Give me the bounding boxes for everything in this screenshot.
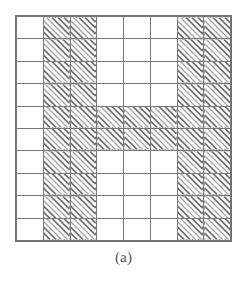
grid-cell-filled [70, 173, 97, 195]
grid-cell-empty [150, 218, 177, 240]
grid-cell-filled [70, 218, 97, 240]
grid-cell-filled [177, 84, 204, 106]
grid-cell-filled [177, 218, 204, 240]
grid-cell-filled [43, 84, 70, 106]
grid-cell-empty [97, 173, 124, 195]
grid-cell-filled [204, 128, 231, 150]
grid-cell-filled [150, 106, 177, 128]
grid-cell-empty [97, 39, 124, 61]
grid-cell-empty [150, 17, 177, 39]
grid-cell-empty [150, 173, 177, 195]
grid-cell-empty [17, 39, 44, 61]
grid-cell-filled [43, 218, 70, 240]
grid-cell-empty [97, 151, 124, 173]
grid-row [17, 17, 231, 39]
grid-cell-filled [177, 128, 204, 150]
grid-cell-filled [43, 17, 70, 39]
grid-row [17, 61, 231, 83]
grid-row [17, 218, 231, 240]
grid-cell-filled [43, 61, 70, 83]
grid-cell-empty [97, 17, 124, 39]
grid-cell-empty [124, 151, 151, 173]
grid-cell-filled [124, 128, 151, 150]
grid-cell-empty [150, 151, 177, 173]
grid-cell-empty [124, 218, 151, 240]
grid-cell-empty [124, 17, 151, 39]
grid-cell-empty [124, 84, 151, 106]
grid-cell-filled [70, 39, 97, 61]
grid-row [17, 151, 231, 173]
grid-cell-empty [97, 84, 124, 106]
grid-cell-empty [17, 84, 44, 106]
grid-cell-empty [124, 61, 151, 83]
grid-cell-empty [150, 61, 177, 83]
grid-row [17, 128, 231, 150]
grid-cell-filled [70, 17, 97, 39]
grid-cell-filled [204, 173, 231, 195]
grid-cell-filled [204, 151, 231, 173]
grid-cell-empty [97, 61, 124, 83]
grid-cell-filled [204, 84, 231, 106]
grid-cell-filled [204, 61, 231, 83]
grid-cell-filled [97, 106, 124, 128]
grid-cell-filled [43, 39, 70, 61]
grid-row [17, 84, 231, 106]
grid-cell-empty [17, 173, 44, 195]
grid-cell-filled [150, 128, 177, 150]
grid-body [17, 17, 231, 241]
grid-row [17, 106, 231, 128]
grid-cell-filled [204, 39, 231, 61]
grid-cell-filled [43, 173, 70, 195]
grid-cell-empty [124, 39, 151, 61]
grid-cell-filled [70, 61, 97, 83]
grid-cell-empty [97, 218, 124, 240]
grid-cell-empty [17, 17, 44, 39]
grid-cell-empty [97, 196, 124, 218]
grid-cell-empty [17, 128, 44, 150]
grid-cell-filled [70, 151, 97, 173]
grid-cell-filled [177, 106, 204, 128]
grid-cell-empty [17, 196, 44, 218]
pattern-grid [15, 15, 232, 242]
grid-cell-filled [70, 106, 97, 128]
grid-cell-filled [177, 196, 204, 218]
grid-cell-empty [17, 151, 44, 173]
grid-cell-empty [124, 196, 151, 218]
grid-cell-filled [177, 173, 204, 195]
grid-cell-filled [204, 17, 231, 39]
grid-cell-filled [70, 128, 97, 150]
grid-row [17, 39, 231, 61]
grid-cell-filled [97, 128, 124, 150]
grid-table [16, 16, 231, 241]
figure-container: (a) [0, 0, 247, 285]
figure-caption: (a) [0, 249, 247, 266]
grid-cell-filled [70, 84, 97, 106]
grid-cell-filled [43, 106, 70, 128]
grid-row [17, 173, 231, 195]
grid-cell-filled [177, 17, 204, 39]
grid-cell-empty [17, 61, 44, 83]
grid-cell-filled [177, 61, 204, 83]
grid-cell-empty [150, 39, 177, 61]
grid-cell-filled [204, 106, 231, 128]
grid-cell-empty [150, 84, 177, 106]
grid-cell-filled [43, 151, 70, 173]
grid-cell-filled [43, 128, 70, 150]
grid-row [17, 196, 231, 218]
grid-cell-empty [150, 196, 177, 218]
grid-cell-empty [17, 106, 44, 128]
grid-cell-empty [17, 218, 44, 240]
grid-cell-filled [43, 196, 70, 218]
grid-cell-filled [204, 218, 231, 240]
grid-cell-filled [124, 106, 151, 128]
grid-cell-filled [177, 151, 204, 173]
grid-cell-empty [124, 173, 151, 195]
grid-cell-filled [70, 196, 97, 218]
grid-cell-filled [177, 39, 204, 61]
grid-cell-filled [204, 196, 231, 218]
